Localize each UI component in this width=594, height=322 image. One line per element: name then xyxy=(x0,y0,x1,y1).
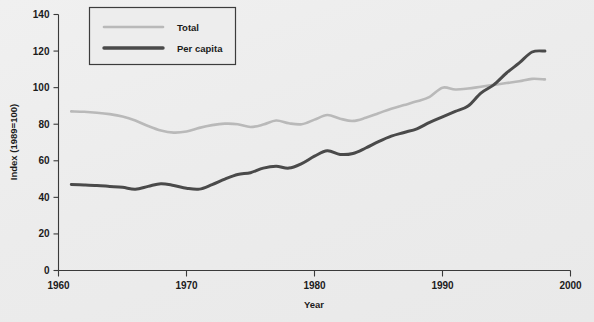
chart-legend: Total Per capita xyxy=(90,8,236,65)
legend-label-total: Total xyxy=(177,22,199,33)
y-tick-label: 40 xyxy=(38,192,50,203)
series-group xyxy=(71,51,545,189)
y-tick-label: 60 xyxy=(38,155,50,166)
x-axis-ticks: 19601970198019902000 xyxy=(47,271,582,291)
y-tick-label: 80 xyxy=(38,119,50,130)
x-tick-label: 1990 xyxy=(431,280,454,291)
y-tick-label: 100 xyxy=(33,82,50,93)
chart-figure: 020406080100120140 19601970198019902000 … xyxy=(0,0,594,322)
legend-box xyxy=(90,8,236,65)
y-tick-label: 0 xyxy=(44,265,50,276)
line-chart: 020406080100120140 19601970198019902000 … xyxy=(0,0,594,322)
y-tick-label: 20 xyxy=(38,228,50,239)
series-line-per-capita xyxy=(71,51,545,189)
series-line-total xyxy=(71,79,545,133)
x-tick-label: 1960 xyxy=(47,280,70,291)
y-axis-title: Index (1989=100) xyxy=(8,104,19,180)
x-tick-label: 1980 xyxy=(303,280,326,291)
x-tick-label: 1970 xyxy=(175,280,198,291)
x-axis-title: Year xyxy=(304,299,324,310)
x-tick-label: 2000 xyxy=(559,280,582,291)
y-tick-label: 120 xyxy=(33,46,50,57)
y-tick-label: 140 xyxy=(33,9,50,20)
legend-label-per-capita: Per capita xyxy=(177,43,223,54)
y-axis-ticks: 020406080100120140 xyxy=(33,9,59,276)
